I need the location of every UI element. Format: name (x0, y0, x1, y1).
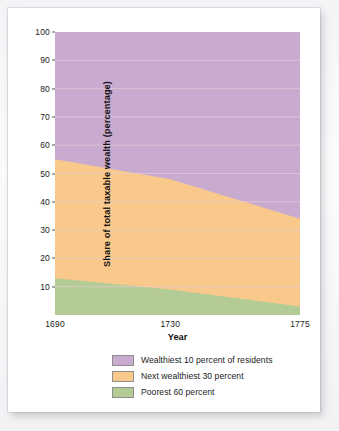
legend-swatch (112, 355, 134, 366)
y-axis-tick-label: 100 (35, 27, 50, 37)
y-axis-tick-mark (52, 173, 55, 174)
chart-legend: Wealthiest 10 percent of residentsNext w… (112, 353, 272, 399)
legend-swatch (112, 387, 134, 398)
y-axis-tick-label: 50 (40, 169, 50, 179)
screenshot-root: 102030405060708090100 Share of total tax… (0, 0, 339, 431)
y-axis-tick-label: 40 (40, 197, 50, 207)
chart-card: 102030405060708090100 Share of total tax… (8, 8, 320, 412)
chart-area: 102030405060708090100 Share of total tax… (55, 32, 300, 315)
y-axis-tick-label: 20 (40, 253, 50, 263)
y-axis-tick-label: 60 (40, 140, 50, 150)
x-axis-tick-label: 1730 (160, 319, 180, 329)
legend-swatch (112, 371, 134, 382)
y-axis-tick-mark (52, 116, 55, 117)
y-axis-tick-mark (52, 145, 55, 146)
y-axis-tick-mark (52, 230, 55, 231)
y-axis-tick-label: 80 (40, 84, 50, 94)
y-axis-title: Share of total taxable wealth (percentag… (102, 81, 112, 267)
y-axis-tick-mark (52, 201, 55, 202)
legend-item[interactable]: Wealthiest 10 percent of residents (112, 353, 272, 367)
plot-region (55, 32, 300, 315)
legend-item[interactable]: Poorest 60 percent (112, 385, 272, 399)
legend-item[interactable]: Next wealthiest 30 percent (112, 369, 272, 383)
y-axis-tick-mark (52, 286, 55, 287)
legend-item-label: Wealthiest 10 percent of residents (141, 355, 272, 365)
y-axis-tick-label: 90 (40, 55, 50, 65)
x-axis-tick-label: 1775 (290, 319, 310, 329)
y-axis-tick-label: 10 (40, 282, 50, 292)
legend-item-label: Poorest 60 percent (141, 387, 215, 397)
y-axis-tick-mark (52, 258, 55, 259)
x-axis-title: Year (168, 332, 187, 342)
y-axis-tick-mark (52, 32, 55, 33)
stacked-area-svg (55, 32, 300, 315)
y-axis-tick-mark (52, 88, 55, 89)
y-axis-tick-label: 70 (40, 112, 50, 122)
x-axis-tick-label: 1690 (45, 319, 65, 329)
legend-item-label: Next wealthiest 30 percent (141, 371, 244, 381)
y-axis-tick-label: 30 (40, 225, 50, 235)
y-axis-tick-mark (52, 60, 55, 61)
